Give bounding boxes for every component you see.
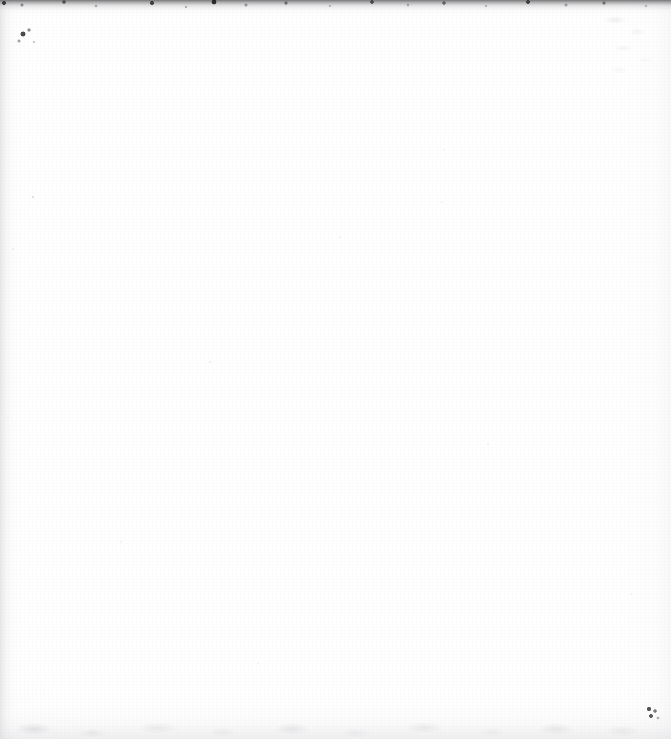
- page-content-area: [30, 26, 641, 696]
- scanned-page: [0, 0, 671, 739]
